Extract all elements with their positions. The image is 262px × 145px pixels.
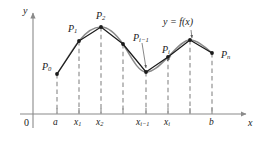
xtick-xi-sub: i (168, 120, 170, 127)
xtick-a-main: a (53, 117, 58, 127)
vertex-P0 (55, 72, 59, 76)
Pi-sub: i (168, 48, 170, 55)
point-label-Pi-1: Pi−1 (133, 33, 149, 44)
leader-Pi-1 (142, 43, 146, 68)
xtick-x1-sub: 1 (78, 120, 81, 127)
P1-sub: 1 (74, 27, 77, 34)
Pi-1-sub: i−1 (139, 36, 149, 43)
x-axis-label: x (248, 118, 252, 128)
P0-sub: 0 (48, 65, 51, 72)
x-axis-ticks (57, 108, 212, 114)
xtick-b-main: b (209, 117, 214, 127)
vertex-P2 (99, 25, 103, 29)
xtick-label-xi-1: xi−1 (136, 118, 149, 128)
leader-fn (191, 30, 192, 38)
P2-sub: 2 (102, 14, 105, 21)
y-axis-label: y (23, 6, 27, 16)
Pn-sub: n (227, 53, 230, 60)
point-label-P0: P0 (42, 62, 51, 73)
xtick-label-a: a (53, 118, 58, 128)
point-label-P2: P2 (96, 11, 105, 22)
point-label-P1: P1 (68, 24, 77, 35)
function-label: y = f(x) (163, 17, 193, 27)
xtick-label-xi: xi (164, 118, 170, 128)
figure-canvas (0, 0, 262, 145)
origin-label: 0 (24, 118, 29, 128)
vertex-Pi-1 (144, 70, 148, 74)
xtick-x2-sub: 2 (100, 120, 103, 127)
vertex-Pn (210, 51, 214, 55)
xtick-label-b: b (209, 118, 214, 128)
point-label-Pn: Pn (221, 50, 230, 61)
point-label-Pi: Pi (162, 45, 170, 56)
xtick-label-x1: x1 (74, 118, 81, 128)
xtick-xi-1-sub: i−1 (140, 120, 149, 127)
vertex-P1 (77, 39, 81, 43)
vertex-P3 (121, 42, 125, 46)
xtick-label-x2: x2 (96, 118, 103, 128)
arc-length-figure: y x 0 y = f(x) a x1 x2 xi−1 xi b P0 P1 P… (0, 0, 262, 145)
vertex-Pmid (188, 38, 192, 42)
